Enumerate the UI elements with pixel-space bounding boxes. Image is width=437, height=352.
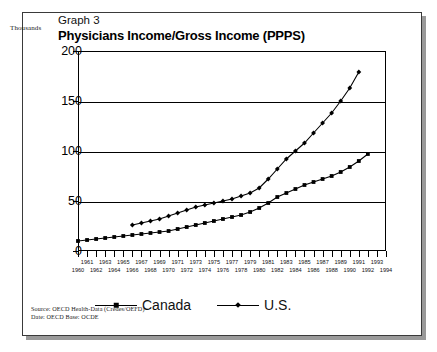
data-point-marker <box>130 233 134 237</box>
x-tick-label: 1992 <box>362 267 374 273</box>
data-point-marker <box>193 205 198 210</box>
x-tick-label: 1993 <box>371 259 383 265</box>
x-tick-label: 1989 <box>334 259 346 265</box>
data-point-marker <box>284 191 288 195</box>
data-point-marker <box>230 197 235 202</box>
data-point-marker <box>248 210 252 214</box>
x-tick-label: 1960 <box>72 267 84 273</box>
x-tick-mark <box>150 251 151 257</box>
x-tick-mark <box>368 251 369 257</box>
x-tick-mark <box>377 251 378 257</box>
source-notes: Source: OECD Health-Data (Credes/OEFD) D… <box>31 305 145 322</box>
data-point-marker <box>185 225 189 229</box>
y-tick-label: 150 <box>42 94 82 108</box>
data-point-marker <box>239 213 243 217</box>
graph-number-label: Graph 3 <box>58 14 100 26</box>
data-point-marker <box>76 239 80 243</box>
x-tick-mark <box>87 251 88 257</box>
data-point-marker <box>184 208 189 213</box>
x-tick-mark <box>314 251 315 257</box>
x-tick-label: 1979 <box>244 259 256 265</box>
data-point-marker <box>221 217 225 221</box>
x-tick-mark <box>223 251 224 257</box>
y-tick-label: 200 <box>42 44 82 58</box>
legend-label-canada: Canada <box>142 297 191 313</box>
data-point-marker <box>103 236 107 240</box>
x-tick-mark <box>132 251 133 257</box>
series-line-canada <box>78 154 368 241</box>
data-point-marker <box>175 211 180 216</box>
x-tick-mark <box>78 251 79 257</box>
x-tick-label: 1986 <box>307 267 319 273</box>
diamond-marker-icon <box>217 300 259 310</box>
data-point-marker <box>166 214 171 219</box>
data-point-marker <box>294 187 298 191</box>
data-point-marker <box>356 70 361 75</box>
x-tick-mark <box>304 251 305 257</box>
x-tick-mark <box>259 251 260 257</box>
x-tick-label: 1968 <box>144 267 156 273</box>
x-tick-mark <box>359 251 360 257</box>
data-point-marker <box>167 229 171 233</box>
x-tick-label: 1961 <box>81 259 93 265</box>
x-tick-label: 1967 <box>135 259 147 265</box>
legend-item-us[interactable]: U.S. <box>217 297 291 313</box>
data-point-marker <box>157 217 162 222</box>
x-tick-label: 1970 <box>162 267 174 273</box>
x-tick-label: 1975 <box>208 259 220 265</box>
data-point-marker <box>148 219 153 224</box>
data-point-marker <box>348 165 352 169</box>
data-point-marker <box>303 183 307 187</box>
legend-label-us: U.S. <box>264 297 291 313</box>
x-tick-mark <box>187 251 188 257</box>
x-tick-label: 1963 <box>99 259 111 265</box>
data-point-marker <box>357 159 361 163</box>
data-point-marker <box>139 221 144 226</box>
x-tick-label: 1985 <box>298 259 310 265</box>
x-tick-label: 1983 <box>280 259 292 265</box>
x-tick-label: 1988 <box>325 267 337 273</box>
data-point-marker <box>203 221 207 225</box>
y-tick-label: 50 <box>42 194 82 208</box>
data-point-marker <box>140 232 144 236</box>
data-point-marker <box>212 219 216 223</box>
x-tick-mark <box>123 251 124 257</box>
data-point-marker <box>275 195 279 199</box>
data-point-marker <box>339 170 343 174</box>
x-tick-mark <box>323 251 324 257</box>
data-point-marker <box>194 223 198 227</box>
source-line: Source: OECD Health-Data (Credes/OEFD) <box>31 305 145 313</box>
y-tick-label: 0 <box>42 244 82 258</box>
x-tick-mark <box>160 251 161 257</box>
series-layer <box>78 51 386 251</box>
data-point-marker <box>158 230 162 234</box>
x-tick-label: 1964 <box>108 267 120 273</box>
x-tick-mark <box>214 251 215 257</box>
data-point-marker <box>321 177 325 181</box>
x-tick-label: 1980 <box>253 267 265 273</box>
date-line: Date: OECD Base: OCDE <box>31 313 145 321</box>
data-point-marker <box>202 203 207 208</box>
data-point-marker <box>330 174 334 178</box>
data-point-marker <box>257 206 261 210</box>
x-tick-mark <box>169 251 170 257</box>
x-tick-label: 1973 <box>190 259 202 265</box>
y-tick-label: 100 <box>42 144 82 158</box>
data-point-marker <box>366 152 370 156</box>
x-tick-label: 1977 <box>226 259 238 265</box>
chart-title: Physicians Income/Gross Income (PPPS) <box>58 28 305 43</box>
x-tick-mark <box>332 251 333 257</box>
x-tick-mark <box>268 251 269 257</box>
x-tick-label: 1971 <box>171 259 183 265</box>
data-point-marker <box>121 234 125 238</box>
y-axis-units-label: Thousands <box>10 24 41 32</box>
series-line-us <box>132 72 358 225</box>
x-tick-mark <box>341 251 342 257</box>
data-point-marker <box>176 227 180 231</box>
x-tick-label: 1976 <box>217 267 229 273</box>
data-point-marker <box>130 223 135 228</box>
data-point-marker <box>312 180 316 184</box>
data-point-marker <box>239 194 244 199</box>
x-tick-label: 1982 <box>271 267 283 273</box>
x-tick-mark <box>250 251 251 257</box>
